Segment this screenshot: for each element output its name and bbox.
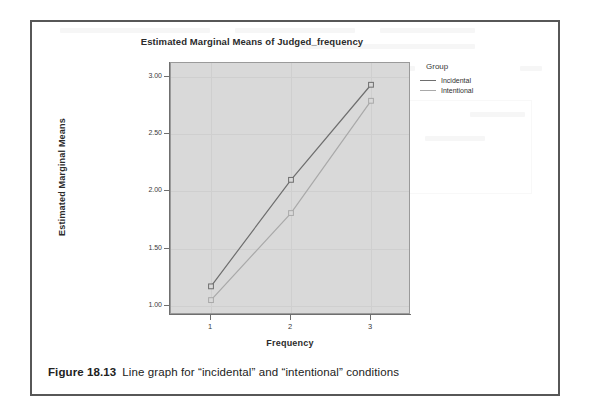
series-marker [209, 284, 214, 289]
x-axis-tick [290, 315, 291, 320]
figure-caption: Figure 18.13Line graph for “incidental” … [48, 366, 548, 378]
y-axis-tick [164, 133, 169, 134]
y-axis-title: Estimated Marginal Means [57, 102, 67, 252]
y-axis-tick-label: 1.50 [128, 244, 162, 251]
y-axis-tick-label-wrap: 2.00 [128, 190, 162, 197]
y-axis-tick [164, 190, 169, 191]
series-marker [289, 211, 294, 216]
series-marker [369, 98, 374, 103]
x-axis-tick-label: 2 [275, 322, 305, 331]
legend-entries: IncidentalIntentional [420, 77, 540, 94]
y-axis-tick-label: 1.00 [128, 301, 162, 308]
legend-title: Group [426, 62, 540, 71]
y-axis-tick-label-wrap: 2.50 [128, 133, 162, 140]
figure-caption-text: Line graph for “incidental” and “intenti… [122, 366, 399, 378]
legend-entry[interactable]: Intentional [420, 87, 540, 94]
y-axis-line [169, 62, 170, 315]
series-marker [209, 298, 214, 303]
y-axis-tick-label-wrap: 1.50 [128, 248, 162, 255]
x-axis-tick [370, 315, 371, 320]
legend-entry[interactable]: Incidental [420, 77, 540, 84]
series-marker [289, 177, 294, 182]
series-line [211, 85, 371, 287]
legend-entry-label: Intentional [441, 87, 473, 94]
y-axis-tick-label-wrap: 1.00 [128, 305, 162, 312]
y-axis-tick-label-wrap: 3.00 [128, 76, 162, 83]
x-axis-tick-label: 1 [195, 322, 225, 331]
series-marker [369, 82, 374, 87]
page-frame: Estimated Marginal Means of Judged_frequ… [30, 20, 560, 396]
x-axis-tick [210, 315, 211, 320]
legend-entry-label: Incidental [441, 77, 471, 84]
x-axis-title: Frequency [170, 338, 410, 348]
x-axis-tick-label: 3 [355, 322, 385, 331]
series-line [211, 101, 371, 300]
y-axis-tick-label: 2.50 [128, 129, 162, 136]
y-axis-tick [164, 248, 169, 249]
y-axis-tick [164, 305, 169, 306]
chart-legend: Group IncidentalIntentional [420, 62, 540, 97]
legend-line-swatch [420, 80, 436, 81]
figure-caption-number: Figure 18.13 [48, 366, 116, 378]
plot-panel [170, 62, 410, 314]
chart-title: Estimated Marginal Means of Judged_frequ… [32, 36, 472, 47]
spss-line-chart: Estimated Marginal Means of Judged_frequ… [32, 22, 562, 362]
y-axis-tick [164, 76, 169, 77]
series-layer [171, 63, 410, 314]
legend-line-swatch [420, 90, 436, 91]
y-axis-tick-label: 3.00 [128, 72, 162, 79]
y-axis-tick-label: 2.00 [128, 186, 162, 193]
